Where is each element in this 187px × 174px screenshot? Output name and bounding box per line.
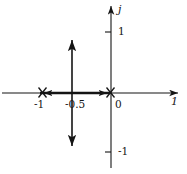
imaginary-tick-label-positive-one: 1 <box>118 26 125 37</box>
root-locus-figure: j 1 1 -1 -1 -0.5 0 <box>0 0 187 174</box>
imaginary-tick-label-negative-one: -1 <box>118 146 128 157</box>
real-tick-label-negative-one: -1 <box>34 99 44 110</box>
real-axis-label: 1 <box>171 96 178 107</box>
real-tick-label-negative-half: -0.5 <box>65 99 85 110</box>
imaginary-axis-label: j <box>118 4 121 15</box>
plot-canvas <box>0 0 187 174</box>
real-tick-label-zero: 0 <box>115 99 122 110</box>
imaginary-axis <box>105 6 111 168</box>
